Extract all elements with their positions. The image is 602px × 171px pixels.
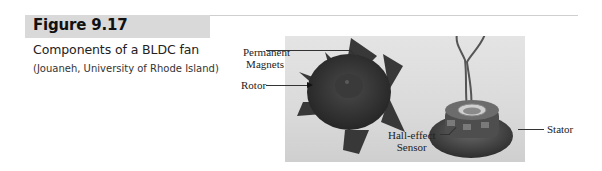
label-stator: Stator <box>547 123 573 135</box>
label-hall-effect-sensor: Hall-effect Sensor <box>388 129 435 153</box>
leader-permanent-magnets <box>266 50 352 51</box>
figure-credit: (Jouaneh, University of Rhode Island) <box>33 63 219 74</box>
figure-number: Figure 9.17 <box>33 16 127 34</box>
leader-rotor <box>266 85 308 86</box>
stator-wires <box>457 36 485 108</box>
arrowhead-rotor <box>307 82 313 88</box>
header-rule <box>210 15 578 16</box>
figure-caption: Components of a BLDC fan <box>33 42 199 57</box>
leader-stator <box>518 129 544 130</box>
label-rotor: Rotor <box>241 79 266 91</box>
